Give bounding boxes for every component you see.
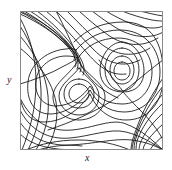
x-axis-label: x — [85, 153, 89, 163]
contour-plot-figure: y x — [0, 0, 172, 170]
contour-plot-canvas — [0, 0, 172, 170]
y-axis-label: y — [7, 75, 11, 85]
figure-background — [0, 0, 172, 170]
